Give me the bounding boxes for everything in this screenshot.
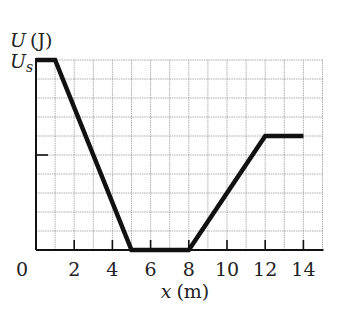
x-tick-label: 6 [145, 258, 157, 280]
x-tick-label: 4 [106, 258, 118, 280]
potential-energy-chart: 02468101214 U(J) Us x(m) [0, 0, 339, 313]
x-axis-title: x(m) [161, 280, 210, 302]
grid [36, 60, 323, 250]
y-axis-title: U(J) [10, 29, 52, 51]
x-tick-labels: 02468101214 [16, 258, 316, 280]
x-tick-label: 14 [291, 258, 315, 280]
x-tick-label: 8 [183, 258, 195, 280]
axes [36, 58, 324, 250]
y-tick-label-us: Us [10, 50, 33, 75]
x-tick-label: 0 [16, 258, 28, 280]
x-tick-label: 12 [253, 258, 277, 280]
x-tick-label: 2 [68, 258, 80, 280]
x-tick-label: 10 [215, 258, 239, 280]
